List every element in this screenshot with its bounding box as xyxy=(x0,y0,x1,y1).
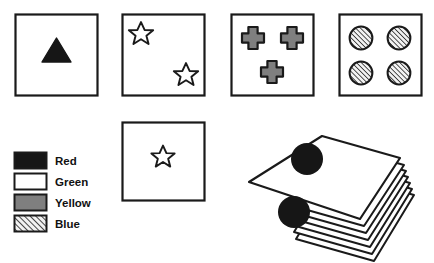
card-stimuli-figure: Red Green Yellow Blue xyxy=(0,0,434,263)
legend-item-red: Red xyxy=(15,153,77,169)
card-4-circle-shape-2 xyxy=(388,27,411,50)
deck-top-card-circle-shape-1 xyxy=(291,143,323,175)
legend-swatch-blue xyxy=(15,216,47,232)
card-3 xyxy=(232,15,314,96)
card-4 xyxy=(340,15,422,96)
card-4-circle-shape-3 xyxy=(350,62,373,85)
legend-swatch-green xyxy=(15,174,47,190)
figure-root: Red Green Yellow Blue xyxy=(0,0,434,263)
card-5 xyxy=(123,123,205,201)
deck-top-card-circle-shape-2 xyxy=(278,196,310,228)
legend-item-blue: Blue xyxy=(15,216,80,232)
card-4-border xyxy=(340,15,422,96)
card-4-circle-shape-1 xyxy=(350,27,373,50)
legend-label-green: Green xyxy=(55,176,88,188)
legend-swatch-yellow xyxy=(15,195,47,211)
card-4-circle-shape-4 xyxy=(388,62,411,85)
legend-label-red: Red xyxy=(55,155,77,167)
card-1 xyxy=(16,15,98,96)
legend-swatch-red xyxy=(15,153,47,169)
legend-label-yellow: Yellow xyxy=(55,197,91,209)
card-2 xyxy=(123,15,205,96)
legend-label-blue: Blue xyxy=(55,218,80,230)
